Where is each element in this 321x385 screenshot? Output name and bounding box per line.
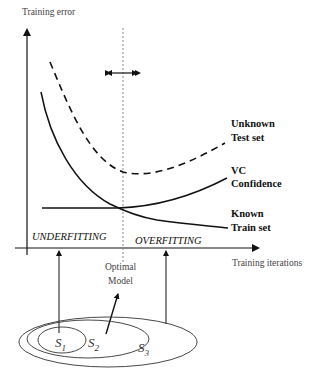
set-s1-label: S1	[55, 335, 66, 353]
y-axis-label: Training error	[22, 7, 76, 17]
vc-label-1: VC	[231, 165, 246, 176]
optimal-pointer-arrow	[106, 294, 118, 334]
set-s2-label: S2	[88, 335, 100, 353]
x-axis-label: Training iterations	[232, 258, 302, 268]
vc-confidence-curve	[42, 178, 227, 208]
train-set-label-2: Train set	[231, 222, 271, 233]
overfitting-label: OVERFITTING	[135, 235, 202, 246]
overfitting-diagram: Training error Training iterations Unkno…	[0, 0, 321, 385]
optimal-label-1: Optimal	[105, 262, 136, 272]
test-set-label-2: Test set	[231, 132, 265, 143]
underfitting-label: UNDERFITTING	[32, 231, 107, 242]
set-s3-ellipse	[19, 317, 197, 367]
test-set-label-1: Unknown	[231, 118, 275, 129]
optimal-label-2: Model	[108, 276, 133, 286]
vc-label-2: Confidence	[231, 178, 282, 189]
test-set-curve	[50, 62, 225, 174]
train-set-label-1: Known	[231, 208, 264, 219]
